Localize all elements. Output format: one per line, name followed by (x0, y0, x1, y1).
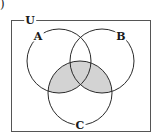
set-a-label: A (33, 31, 44, 42)
universe-label: U (24, 15, 36, 26)
set-b-label: B (115, 31, 126, 42)
set-c-label: C (75, 120, 86, 131)
venn-diagram-figure: ) U A B C (0, 0, 155, 134)
